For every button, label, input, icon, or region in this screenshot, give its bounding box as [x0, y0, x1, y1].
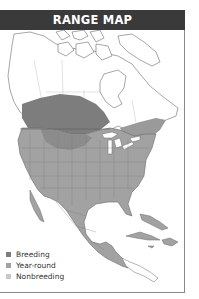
legend-item-year-round: Year-round — [6, 260, 96, 271]
range-map-title: RANGE MAP — [53, 13, 132, 27]
year-round-range — [18, 128, 156, 268]
range-map-header: RANGE MAP — [0, 10, 185, 30]
caribbean-islands — [126, 214, 178, 248]
range-map-card: RANGE MAP — [0, 0, 199, 299]
legend-item-nonbreeding: Nonbreeding — [6, 271, 96, 282]
breeding-swatch-icon — [6, 252, 11, 257]
legend-label: Year-round — [16, 261, 56, 270]
year-round-swatch-icon — [6, 263, 11, 268]
legend-label: Breeding — [16, 250, 50, 259]
central-america — [122, 258, 158, 282]
legend-item-breeding: Breeding — [6, 249, 96, 260]
legend-label: Nonbreeding — [16, 272, 64, 281]
baja-california — [30, 190, 44, 222]
nonbreeding-swatch-icon — [6, 274, 11, 279]
map-legend: Breeding Year-round Nonbreeding — [6, 249, 96, 282]
